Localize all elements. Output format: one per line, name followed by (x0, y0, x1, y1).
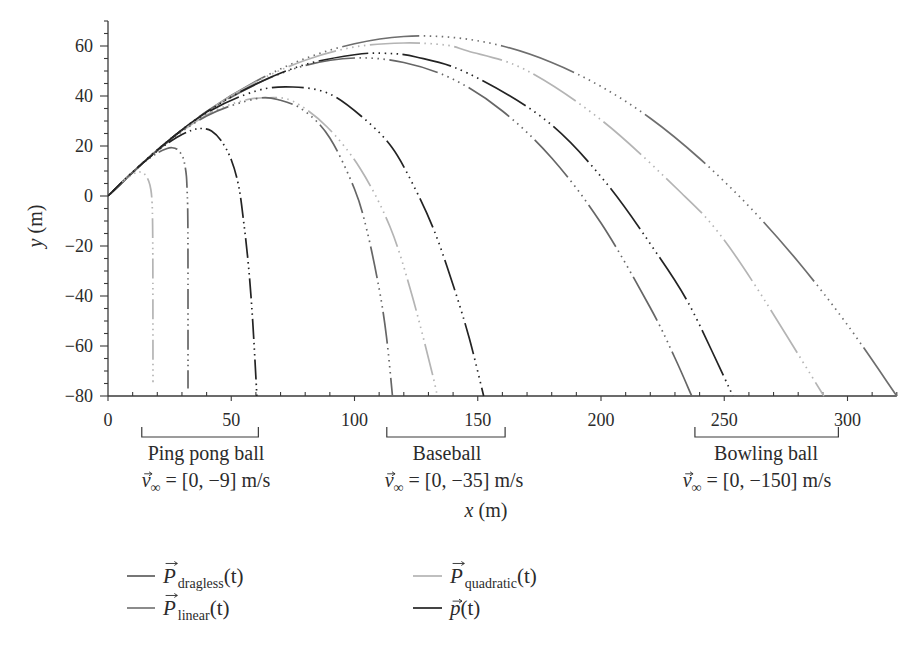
legend: Pdragless(t) Pquadratic(t) Plinear(t) p(… (127, 564, 537, 623)
trajectory-baseball-p (108, 87, 484, 396)
legend-subscript: linear (178, 608, 210, 623)
velocity-value: = [0, −35] m/s (409, 469, 524, 491)
velocity-subscript: ∞ (151, 480, 161, 495)
annotation-bowling-label: Bowling ball (714, 442, 818, 465)
legend-argument: (t) (517, 564, 537, 588)
velocity-symbol: v (142, 469, 151, 491)
velocity-subscript: ∞ (692, 480, 702, 495)
y-tick-label: 20 (75, 136, 93, 156)
y-tick-label: 0 (84, 186, 93, 206)
trajectory-pingpong-quadratic (108, 172, 153, 382)
legend-symbol: P (449, 564, 463, 588)
x-axis-unit: (m) (479, 499, 508, 522)
legend-symbol: P (162, 564, 176, 588)
legend-subscript: dragless (178, 576, 224, 591)
y-axis-var: y (24, 238, 47, 249)
trajectory-baseball-linear (108, 98, 392, 396)
x-tick-label: 250 (711, 410, 738, 430)
velocity-subscript: ∞ (394, 480, 404, 495)
trajectory-figure: 050100150200250300−80−60−40−200204060 y(… (0, 0, 916, 647)
legend-label-dragless: Pdragless(t) (162, 564, 244, 591)
legend-argument: (t) (224, 564, 244, 588)
legend-item-quadratic: Pquadratic(t) (413, 564, 537, 591)
y-tick-label: 40 (75, 86, 93, 106)
x-axis-label: x(m) (464, 499, 508, 522)
velocity-value: = [0, −9] m/s (166, 469, 271, 491)
x-tick-label: 0 (104, 410, 113, 430)
x-tick-label: 200 (588, 410, 615, 430)
annotation-baseball-terminal-velocity: v∞= [0, −35] m/s (385, 469, 524, 495)
x-tick-label: 100 (341, 410, 368, 430)
x-axis-var: x (464, 499, 474, 521)
y-tick-label: −40 (65, 286, 93, 306)
trajectory-bowling-quadratic (108, 43, 824, 396)
annotation-ping-pong-label: Ping pong ball (148, 442, 265, 465)
velocity-value: = [0, −150] m/s (707, 469, 832, 491)
legend-symbol: P (162, 596, 176, 620)
legend-symbol: p (448, 596, 461, 620)
x-tick-label: 150 (464, 410, 491, 430)
bracket-0 (142, 427, 259, 437)
trajectory-pingpong-p (108, 128, 257, 396)
legend-item-p: p(t) (413, 596, 480, 620)
velocity-symbol: v (385, 469, 394, 491)
axes: 050100150200250300−80−60−40−200204060 (65, 21, 897, 430)
annotation-ping-pong-terminal-velocity: v∞= [0, −9] m/s (142, 469, 271, 495)
y-axis-unit: (m) (24, 205, 47, 234)
velocity-symbol: v (683, 469, 692, 491)
legend-label-quadratic: Pquadratic(t) (449, 564, 537, 591)
legend-argument: (t) (461, 596, 481, 620)
y-tick-label: −60 (65, 336, 93, 356)
trajectory-dragless (108, 36, 897, 396)
y-axis-label: y(m) (24, 205, 47, 250)
y-tick-label: −80 (65, 386, 93, 406)
trajectory-curves (108, 36, 897, 396)
trajectory-bowling-linear (108, 58, 692, 396)
annotation-bowling-terminal-velocity: v∞= [0, −150] m/s (683, 469, 832, 495)
legend-item-linear: Plinear(t) (127, 596, 230, 623)
legend-argument: (t) (210, 596, 230, 620)
trajectory-chart: 050100150200250300−80−60−40−200204060 y(… (0, 0, 916, 647)
y-tick-label: 60 (75, 36, 93, 56)
trajectory-bowling-p (108, 53, 733, 396)
legend-item-dragless: Pdragless(t) (127, 564, 244, 591)
x-tick-label: 50 (222, 410, 240, 430)
annotation-baseball-label: Baseball (413, 442, 482, 464)
legend-label-linear: Plinear(t) (162, 596, 230, 623)
legend-label-p: p(t) (448, 596, 480, 620)
y-tick-label: −20 (65, 236, 93, 256)
legend-subscript: quadratic (465, 576, 517, 591)
